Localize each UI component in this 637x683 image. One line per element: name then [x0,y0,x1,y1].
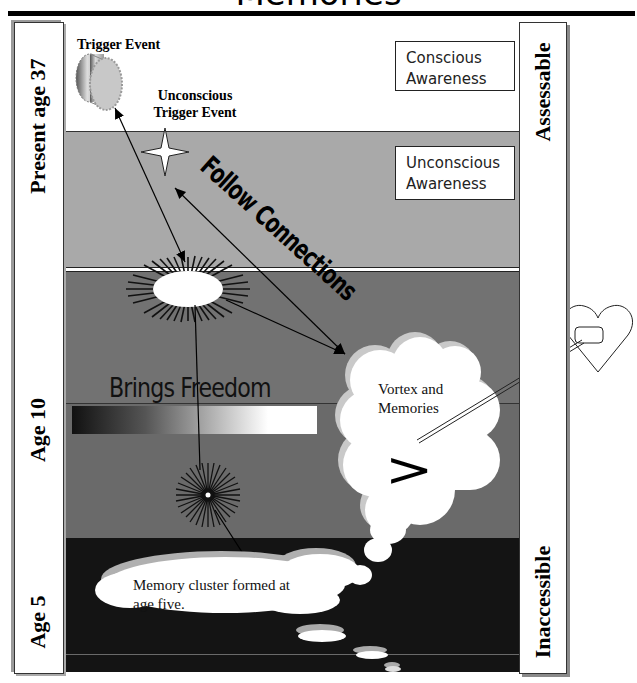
label-line: Memory cluster formed at [133,576,290,595]
left-age-column: Present age 37 Age 10 Age 5 [14,22,64,674]
box-line: Awareness [406,69,504,90]
inaccessible-label: Inaccessible [530,529,556,675]
small-sunburst-icon [176,463,240,527]
box-line: Conscious [406,48,504,69]
label-line: Trigger Event [140,104,250,121]
four-point-star-icon [141,128,189,176]
trigger-event-label: Trigger Event [77,36,160,53]
label-line: Vortex and [378,380,443,399]
box-line: Awareness [406,174,504,195]
unconscious-awareness-box: Unconscious Awareness [395,146,515,200]
unconscious-trigger-label: Unconscious Trigger Event [140,87,250,121]
memory-cluster-label: Memory cluster formed at age five. [133,576,290,614]
box-line: Unconscious [406,153,504,174]
conscious-awareness-box: Conscious Awareness [395,41,515,91]
right-access-column: Assessable Inaccessible [519,22,567,674]
brings-freedom-label: Brings Freedom [109,372,271,403]
label-line: age five. [133,595,290,614]
assessable-label: Assessable [530,27,556,157]
age-label-10: Age 10 [25,385,51,475]
sunburst-icon [126,256,250,322]
age-label-present: Present age 37 [25,41,51,211]
label-line: Unconscious [140,87,250,104]
vortex-symbol: > [385,445,433,493]
cylinder-gear-icon [76,54,122,110]
vortex-label: Vortex and Memories [378,380,443,418]
label-line: Memories [378,399,443,418]
age-label-5: Age 5 [25,577,51,667]
